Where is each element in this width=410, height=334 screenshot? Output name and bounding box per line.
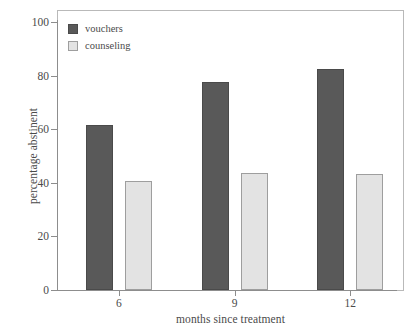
- x-axis-line: [57, 290, 397, 291]
- bar-counseling-12: [356, 174, 383, 290]
- x-tick-mark: [235, 290, 236, 296]
- x-tick-label: 6: [99, 297, 139, 309]
- counseling-swatch-icon: [68, 41, 78, 51]
- bar-vouchers-9: [202, 82, 229, 290]
- legend-label-counseling: counseling: [85, 40, 131, 51]
- legend-item-counseling: counseling: [68, 38, 131, 53]
- bar-chart-figure: 020406080100 6912 vouchers counseling pe…: [0, 0, 410, 334]
- bar-counseling-9: [241, 173, 268, 290]
- y-tick-mark: [51, 183, 57, 184]
- y-axis-title: percentage abstinent: [27, 76, 39, 236]
- y-tick-mark: [51, 22, 57, 23]
- x-tick-mark: [119, 290, 120, 296]
- x-axis-title: months since treatment: [57, 313, 404, 325]
- chart-legend: vouchers counseling: [68, 21, 131, 55]
- bar-counseling-6: [125, 181, 152, 290]
- y-tick-mark: [51, 290, 57, 291]
- x-tick-mark: [350, 290, 351, 296]
- y-tick-mark: [51, 236, 57, 237]
- bar-vouchers-12: [317, 69, 344, 290]
- y-axis-line: [57, 20, 58, 291]
- y-tick-mark: [51, 76, 57, 77]
- y-tick-mark: [51, 129, 57, 130]
- y-tick-label: 100: [9, 16, 49, 28]
- legend-item-vouchers: vouchers: [68, 21, 131, 36]
- bar-vouchers-6: [86, 125, 113, 290]
- x-tick-label: 9: [215, 297, 255, 309]
- x-tick-label: 12: [330, 297, 370, 309]
- legend-label-vouchers: vouchers: [85, 23, 123, 34]
- vouchers-swatch-icon: [68, 24, 78, 34]
- y-tick-label: 0: [9, 284, 49, 296]
